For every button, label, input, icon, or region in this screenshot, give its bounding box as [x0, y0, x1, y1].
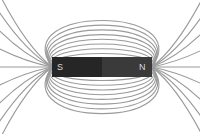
south-pole-label: S: [57, 62, 63, 72]
bar-magnet: S N: [52, 57, 152, 77]
field-lines: S N: [0, 0, 200, 134]
magnet-field-diagram: S N: [0, 0, 200, 134]
north-pole-label: N: [139, 62, 146, 72]
